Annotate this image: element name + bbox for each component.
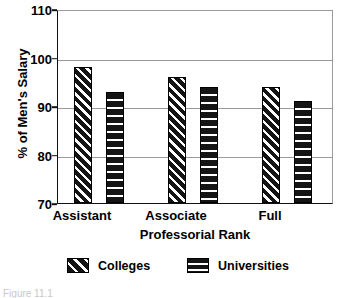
- y-tick-label-90: 90: [12, 101, 52, 114]
- bar-universities-associate: [200, 87, 218, 203]
- legend-swatch-universities-icon: [187, 258, 209, 273]
- bar-universities-full: [294, 101, 312, 203]
- legend-swatch-colleges-icon: [67, 258, 89, 273]
- bar-colleges-full: [262, 87, 280, 203]
- bar-universities-assistant: [106, 92, 124, 204]
- x-tick-label-full: Full: [210, 208, 330, 223]
- legend-entry-colleges: Colleges: [67, 258, 150, 273]
- bar-colleges-associate: [168, 77, 186, 203]
- x-axis-title: Professorial Rank: [57, 227, 333, 242]
- gridline-100: [58, 60, 332, 61]
- gridline-80: [58, 157, 332, 158]
- y-tick-label-100: 100: [12, 52, 52, 65]
- chart-legend: Colleges Universities: [57, 258, 333, 280]
- bar-colleges-assistant: [74, 67, 92, 203]
- y-tick-label-80: 80: [12, 149, 52, 162]
- legend-label-universities: Universities: [218, 259, 289, 273]
- figure-caption: Figure 11.1: [3, 288, 53, 298]
- legend-label-colleges: Colleges: [98, 259, 150, 273]
- chart-figure: % of Men's Salary 110 100 90 80 70 Assis…: [0, 0, 346, 298]
- legend-entry-universities: Universities: [187, 258, 289, 273]
- plot-area: [57, 10, 333, 204]
- y-tick-label-110: 110: [12, 4, 52, 17]
- gridline-90: [58, 108, 332, 109]
